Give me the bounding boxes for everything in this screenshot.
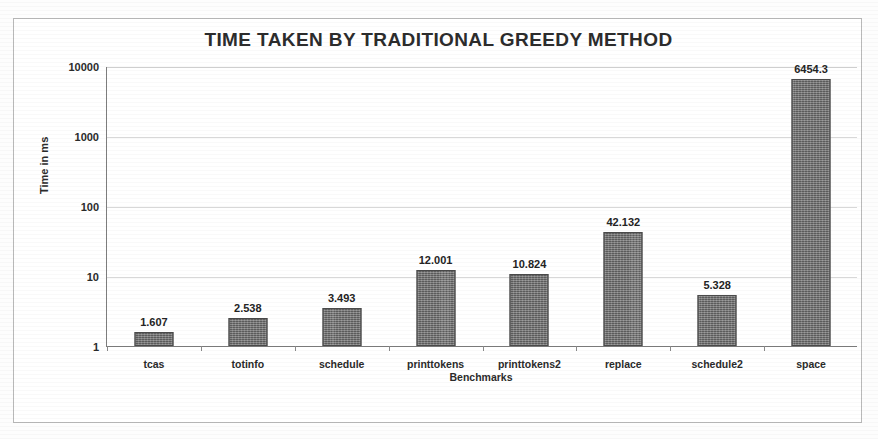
y-axis-tick-label: 1 [93,341,99,353]
bar-tcas [134,332,173,346]
bar-group: 10.824printtokens2 [483,67,577,346]
x-axis-category-label: tcas [143,358,164,370]
chart-frame: TIME TAKEN BY TRADITIONAL GREEDY METHOD … [13,18,862,423]
x-axis-category-label: schedule [319,358,365,370]
bar-value-label: 3.493 [328,292,356,304]
x-axis-tick [576,346,577,351]
x-axis-category-label: printtokens [407,358,464,370]
x-axis-category-label: schedule2 [692,358,743,370]
bar-replace [604,232,643,346]
bar-value-label: 5.328 [703,279,731,291]
bar-group: 3.493schedule [295,67,389,346]
bar-group: 5.328schedule2 [670,67,764,346]
x-axis-tick [670,346,671,351]
bar-group: 6454.3space [764,67,858,346]
x-axis-tick [107,346,108,351]
bar-value-label: 1.607 [140,316,168,328]
bar-group: 2.538totinfo [201,67,295,346]
bar-totinfo [228,318,267,346]
bar-schedule2 [698,295,737,346]
bar-value-label: 2.538 [234,302,262,314]
bar-value-label: 42.132 [606,216,640,228]
bar-group: 42.132replace [576,67,670,346]
bar-group: 1.607tcas [107,67,201,346]
y-axis-tick-label: 1000 [75,131,99,143]
x-axis-title: Benchmarks [106,371,856,383]
x-axis-category-label: printtokens2 [498,358,561,370]
x-axis-tick [764,346,765,351]
bar-value-label: 10.824 [513,258,547,270]
x-axis-category-label: totinfo [231,358,264,370]
bar-value-label: 12.001 [419,254,453,266]
x-axis-category-label: replace [605,358,642,370]
scanned-page-background: TIME TAKEN BY TRADITIONAL GREEDY METHOD … [0,0,878,439]
bar-space [792,79,831,346]
bar-printtokens [416,270,455,346]
x-axis-tick [483,346,484,351]
y-axis-tick-label: 10 [87,271,99,283]
bar-schedule [322,308,361,346]
bar-printtokens2 [510,274,549,346]
y-axis-tick-label: 10000 [68,61,99,73]
chart-title: TIME TAKEN BY TRADITIONAL GREEDY METHOD [14,29,863,51]
plot-area: 1000010001001011.607tcas2.538totinfo3.49… [106,67,857,347]
x-axis-category-label: space [796,358,826,370]
x-axis-tick [295,346,296,351]
bar-value-label: 6454.3 [794,63,828,75]
bar-group: 12.001printtokens [389,67,483,346]
x-axis-tick [201,346,202,351]
x-axis-tick [389,346,390,351]
y-axis-title: Time in ms [38,137,50,194]
y-axis-tick-label: 100 [81,201,99,213]
